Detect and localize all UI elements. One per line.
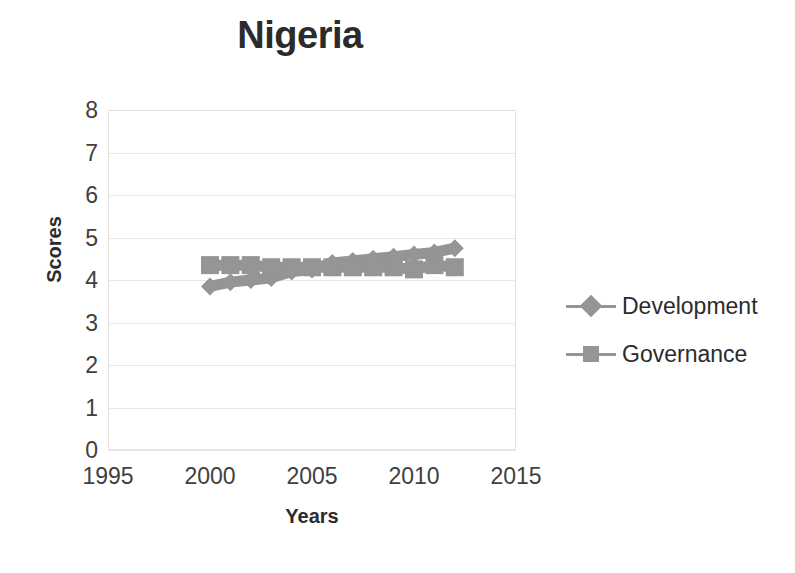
x-axis-title: Years [108,505,516,528]
data-point-square [283,258,301,276]
data-point-square [446,258,464,276]
x-tick-label: 2005 [267,463,357,490]
data-point-square [344,258,362,276]
data-point-square [425,256,443,274]
data-point-square [364,258,382,276]
gridline [108,450,516,451]
y-tick-label: 1 [58,396,98,419]
data-point-square [405,260,423,278]
data-point-square [242,256,260,274]
legend-key-square-icon [566,343,616,365]
legend-label: Development [622,293,758,320]
legend-marker-square [583,346,599,362]
y-tick-label: 6 [58,184,98,207]
y-tick-label: 5 [58,226,98,249]
y-tick-label: 3 [58,311,98,334]
x-tick-label: 2010 [369,463,459,490]
x-tick-label: 2000 [165,463,255,490]
data-point-square [303,258,321,276]
y-tick-label: 2 [58,354,98,377]
legend-item-governance[interactable]: Governance [566,330,791,378]
x-tick-label: 1995 [63,463,153,490]
chart-legend: DevelopmentGovernance [566,282,791,378]
plot-area [108,110,516,450]
data-point-square [323,258,341,276]
data-point-square [262,258,280,276]
x-tick-label: 2015 [471,463,561,490]
y-tick-label: 4 [58,269,98,292]
data-point-square [385,258,403,276]
series-governance [201,256,464,278]
y-tick-label: 8 [58,99,98,122]
chart-container: Nigeria Scores Years 012345678 199520002… [0,0,795,573]
legend-marker-diamond [580,295,603,318]
legend-key-diamond-icon [566,295,616,317]
data-point-square [201,256,219,274]
y-tick-label: 7 [58,141,98,164]
legend-item-development[interactable]: Development [566,282,791,330]
data-point-square [221,256,239,274]
legend-label: Governance [622,341,747,368]
y-tick-label: 0 [58,439,98,462]
series-layer [108,110,516,450]
